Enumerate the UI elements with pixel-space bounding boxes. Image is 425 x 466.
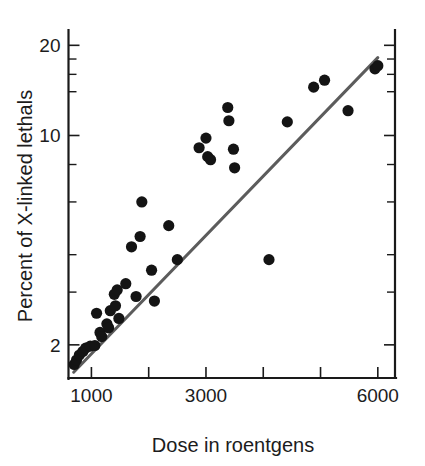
data-point [205, 154, 216, 165]
data-point [194, 142, 205, 153]
data-point [372, 60, 383, 71]
data-point [223, 115, 234, 126]
data-point [136, 196, 147, 207]
data-point [263, 254, 274, 265]
data-point [120, 278, 131, 289]
data-point [96, 331, 107, 342]
y-tick-label-2: 2 [50, 335, 61, 356]
y-axis-tick-labels: 20102 [39, 35, 60, 356]
data-point [110, 300, 121, 311]
data-point [229, 162, 240, 173]
data-point [91, 308, 102, 319]
data-point [172, 254, 183, 265]
data-point [163, 220, 174, 231]
data-point [149, 295, 160, 306]
x-tick-label-3000: 3000 [185, 385, 227, 406]
data-point [308, 82, 319, 93]
data-point [222, 102, 233, 113]
data-point [342, 105, 353, 116]
data-point [126, 241, 137, 252]
y-tick-label-10: 10 [39, 125, 60, 146]
scatter-plot: 20102 100030006000 Dose in roentgens Per… [0, 0, 425, 466]
x-tick-label-1000: 1000 [70, 385, 112, 406]
data-point [89, 340, 100, 351]
x-axis-tick-labels: 100030006000 [70, 385, 399, 406]
data-point [103, 322, 114, 333]
x-axis-title: Dose in roentgens [152, 434, 314, 456]
data-point [200, 133, 211, 144]
right-axis-ticks [384, 45, 395, 345]
y-axis-ticks [69, 45, 80, 345]
data-point [113, 313, 124, 324]
y-axis-title: Percent of X-linked lethals [14, 90, 36, 322]
x-tick-label-6000: 6000 [357, 385, 399, 406]
y-tick-label-20: 20 [39, 35, 60, 56]
data-point [135, 231, 146, 242]
data-point [282, 116, 293, 127]
data-point [146, 265, 157, 276]
figure-panel: 20102 100030006000 Dose in roentgens Per… [0, 0, 425, 466]
x-axis-ticks [91, 367, 377, 378]
data-point [130, 291, 141, 302]
data-point [319, 75, 330, 86]
data-point [228, 144, 239, 155]
